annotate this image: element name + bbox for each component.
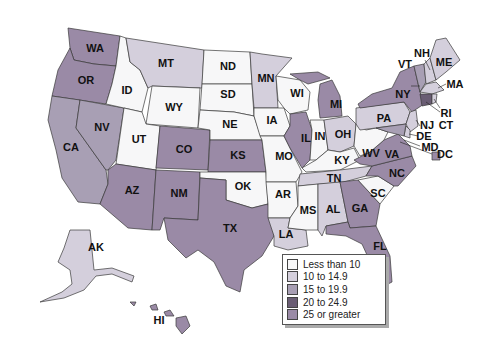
label-ct: CT [439, 119, 454, 131]
label-ok: OK [235, 180, 252, 192]
label-sd: SD [220, 88, 235, 100]
legend-swatch-20-to-24-9 [287, 297, 298, 308]
legend-item: 20 to 24.9 [287, 296, 381, 309]
label-ak: AK [88, 241, 104, 253]
label-vt: VT [398, 58, 412, 70]
label-mt: MT [158, 57, 174, 69]
label-ny: NY [395, 88, 411, 100]
legend-label: Less than 10 [303, 259, 360, 270]
label-oh: OH [335, 128, 352, 140]
legend-label: 10 to 14.9 [303, 271, 347, 282]
label-ri: RI [441, 107, 452, 119]
legend-label: 20 to 24.9 [303, 297, 347, 308]
leader-ri [434, 99, 440, 108]
label-ca: CA [63, 141, 79, 153]
label-me: ME [436, 56, 453, 68]
legend-swatch-25-or-greater [287, 309, 298, 320]
label-id: ID [122, 84, 133, 96]
legend-swatch-10-to-14-9 [287, 271, 298, 282]
label-ut: UT [132, 133, 147, 145]
label-al: AL [326, 203, 341, 215]
label-dc: DC [437, 148, 453, 160]
label-la: LA [279, 228, 294, 240]
label-ne: NE [222, 118, 237, 130]
label-il: IL [301, 132, 311, 144]
label-tx: TX [223, 222, 238, 234]
label-mn: MN [257, 72, 274, 84]
label-wy: WY [165, 101, 183, 113]
label-nc: NC [389, 167, 405, 179]
label-nv: NV [94, 121, 110, 133]
label-nm: NM [170, 187, 187, 199]
label-ma: MA [446, 78, 463, 90]
label-mo: MO [275, 150, 293, 162]
label-ia: IA [267, 114, 278, 126]
label-sc: SC [370, 187, 385, 199]
legend-swatch-15-to-19-9 [287, 284, 298, 295]
label-nh: NH [414, 47, 430, 59]
label-fl: FL [373, 240, 387, 252]
label-ky: KY [334, 154, 350, 166]
legend-item: Less than 10 [287, 258, 381, 271]
label-or: OR [78, 74, 95, 86]
label-wv: WV [362, 147, 380, 159]
label-va: VA [385, 148, 400, 160]
us-choropleth-map: WA OR CA NV ID MT WY UT CO AZ NM ND SD N… [0, 0, 492, 364]
label-az: AZ [125, 184, 140, 196]
label-in: IN [315, 130, 326, 142]
label-md: MD [421, 141, 438, 153]
label-wi: WI [290, 87, 303, 99]
label-tn: TN [327, 172, 342, 184]
label-ar: AR [275, 188, 291, 200]
legend-swatch-less-than-10 [287, 259, 298, 270]
state-ct [420, 94, 432, 106]
legend-label: 25 or greater [303, 309, 360, 320]
label-nd: ND [220, 60, 236, 72]
legend: Less than 10 10 to 14.9 15 to 19.9 20 to… [282, 254, 386, 325]
label-co: CO [176, 143, 193, 155]
legend-label: 15 to 19.9 [303, 284, 347, 295]
label-ms: MS [300, 204, 317, 216]
legend-item: 15 to 19.9 [287, 283, 381, 296]
label-mi: MI [330, 98, 342, 110]
label-hi: HI [154, 314, 165, 326]
state-ak [40, 230, 134, 302]
legend-item: 25 or greater [287, 308, 381, 321]
label-ks: KS [230, 149, 245, 161]
label-pa: PA [377, 112, 392, 124]
label-ga: GA [352, 202, 369, 214]
state-az [100, 164, 156, 230]
legend-item: 10 to 14.9 [287, 271, 381, 284]
label-wa: WA [86, 42, 104, 54]
